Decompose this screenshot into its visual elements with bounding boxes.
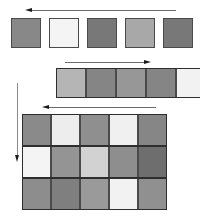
bottom-grid-cell-r0c1 xyxy=(51,114,80,146)
bottom-arrow-head-left-icon xyxy=(42,105,49,109)
bottom-grid-cell-r1c1 xyxy=(51,146,80,178)
bottom-arrow-line xyxy=(47,107,156,108)
top-arrow-line xyxy=(30,10,176,11)
middle-row-tile-1 xyxy=(86,68,116,98)
middle-row-tile-4 xyxy=(176,68,200,98)
vertical-arrow-line xyxy=(17,83,18,157)
bottom-grid-row-separator-2 xyxy=(22,177,167,179)
bottom-grid-cell-r0c4 xyxy=(138,114,167,146)
top-row-tile-3 xyxy=(125,18,155,48)
top-row-tile-0 xyxy=(11,18,41,48)
bottom-grid-cell-r2c1 xyxy=(51,178,80,210)
bottom-grid-cell-r1c3 xyxy=(109,146,138,178)
bottom-grid-cell-r2c2 xyxy=(80,178,109,210)
middle-row-tile-2 xyxy=(116,68,146,98)
top-row-tile-1 xyxy=(49,18,79,48)
middle-arrow-line xyxy=(65,62,145,63)
bottom-grid-cell-r1c4 xyxy=(138,146,167,178)
bottom-grid-cell-r0c2 xyxy=(80,114,109,146)
bottom-grid-cell-r1c2 xyxy=(80,146,109,178)
top-row-tile-2 xyxy=(87,18,117,48)
middle-row-tile-3 xyxy=(146,68,176,98)
bottom-grid-cell-r2c3 xyxy=(109,178,138,210)
bottom-grid-cell-r2c4 xyxy=(138,178,167,210)
bottom-grid-cell-r2c0 xyxy=(22,178,51,210)
bottom-grid-cell-r0c0 xyxy=(22,114,51,146)
top-arrow-head-left-icon xyxy=(25,8,32,12)
bottom-grid-row-separator-1 xyxy=(22,145,167,147)
diagram-canvas xyxy=(0,0,200,221)
middle-arrow-head-right-icon xyxy=(144,60,151,64)
vertical-arrow-head-down-icon xyxy=(15,155,19,162)
top-row-tile-4 xyxy=(163,18,193,48)
middle-row-tile-0 xyxy=(56,68,86,98)
bottom-grid-cell-r0c3 xyxy=(109,114,138,146)
bottom-grid-cell-r1c0 xyxy=(22,146,51,178)
